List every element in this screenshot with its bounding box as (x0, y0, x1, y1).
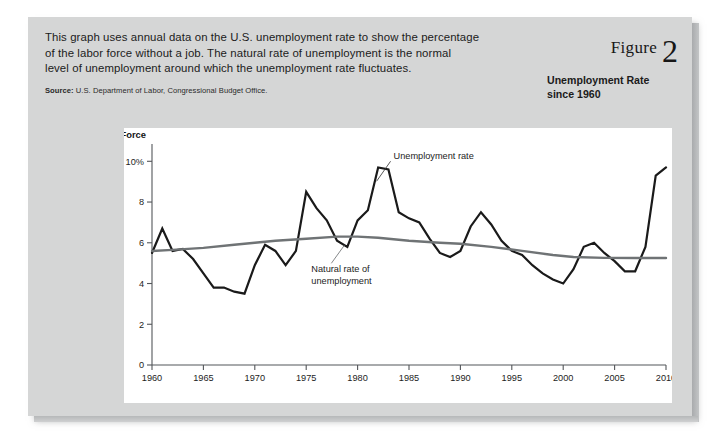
chart-plot-white-panel: 0246810% 1960196519701975198019851990199… (124, 128, 672, 403)
x-tick-label: 1965 (193, 373, 213, 383)
x-tick-label: 1960 (142, 373, 162, 383)
x-tick-label: 1990 (450, 373, 470, 383)
y-tick-label: 2 (139, 320, 144, 330)
x-tick-label: 1975 (296, 373, 316, 383)
figure-title-line-2: since 1960 (547, 87, 687, 101)
source-line: Source: U.S. Department of Labor, Congre… (45, 86, 490, 95)
x-tick-label: 1995 (502, 373, 522, 383)
y-tick-label: 4 (139, 279, 144, 289)
annotation-unemployment-rate-label: Unemployment rate (394, 151, 474, 161)
figure-tag: Figure2 (547, 33, 678, 70)
x-tick-label: 2010 (656, 373, 672, 383)
figure-card: This graph uses annual data on the U.S. … (28, 17, 692, 416)
annotation-natural-rate-label-line-2: unemployment (311, 276, 372, 286)
figure-title: Unemployment Rate since 1960 (547, 73, 687, 102)
y-axis: 0246810% (126, 144, 152, 370)
intro-line-2: of the labor force without a job. The na… (45, 46, 490, 62)
header-text-block: This graph uses annual data on the U.S. … (45, 30, 490, 95)
x-tick-label: 1970 (245, 373, 265, 383)
y-tick-label: 8 (139, 197, 144, 207)
intro-line-1: This graph uses annual data on the U.S. … (45, 30, 490, 46)
figure-number: 2 (662, 33, 678, 69)
figure-title-line-1: Unemployment Rate (547, 73, 687, 87)
annotation-natural-rate-leader (331, 245, 344, 263)
x-tick-label: 1985 (399, 373, 419, 383)
annotation-natural-rate-label-line-1: Natural rate of (311, 264, 370, 274)
series-line-natural-rate-of-unemployment (152, 237, 666, 258)
figure-word: Figure (611, 38, 657, 57)
x-tick-label: 2000 (553, 373, 573, 383)
y-tick-label: 0 (139, 360, 144, 370)
intro-line-3: level of unemployment around which the u… (45, 61, 490, 77)
chart-annotations-group: Unemployment rateNatural rate ofunemploy… (311, 151, 473, 286)
y-tick-label: 6 (139, 238, 144, 248)
card-shadow-bottom (34, 416, 698, 422)
y-axis-title-line-2: Labor Force (124, 129, 146, 140)
source-label: Source: (45, 86, 74, 95)
card-shadow-right (692, 23, 699, 422)
x-axis: 1960196519701975198019851990199520002005… (142, 365, 672, 383)
source-text: U.S. Department of Labor, Congressional … (74, 86, 268, 95)
chart-series-group (152, 167, 666, 293)
x-tick-label: 1980 (347, 373, 367, 383)
y-axis-title: Percent ofLabor Force (124, 128, 147, 140)
series-line-unemployment-rate (152, 167, 666, 293)
x-tick-label: 2005 (604, 373, 624, 383)
unemployment-line-chart: 0246810% 1960196519701975198019851990199… (124, 128, 672, 403)
y-tick-label: 10% (126, 157, 144, 167)
